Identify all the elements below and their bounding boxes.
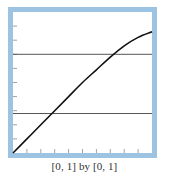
chart: [0, 0, 169, 178]
window-caption: [0, 1] by [0, 1]: [0, 160, 169, 172]
